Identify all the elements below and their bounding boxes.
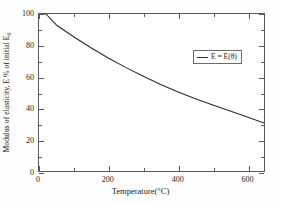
y-tick-label-20: 20 — [26, 136, 34, 145]
y-tick-20 — [39, 141, 44, 142]
x-tick-top-300 — [144, 14, 145, 17]
y-tick-label-80: 80 — [26, 40, 34, 49]
x-tick-top-100 — [74, 14, 75, 17]
y-tick-right-70 — [261, 62, 264, 63]
y-axis-title-container: Modulus of elasticity, E % of initial E0 — [0, 0, 14, 185]
y-tick-right-10 — [261, 157, 264, 158]
y-tick-10 — [39, 157, 42, 158]
y-tick-right-60 — [259, 78, 264, 79]
x-tick-top-400 — [179, 14, 180, 19]
legend-label: E = E(θ) — [211, 53, 237, 61]
y-tick-0 — [39, 173, 44, 174]
y-tick-right-100 — [259, 14, 264, 15]
y-tick-right-80 — [259, 46, 264, 47]
data-curve-line — [39, 14, 264, 123]
y-tick-30 — [39, 125, 42, 126]
y-tick-label-40: 40 — [26, 104, 34, 113]
x-tick-300 — [144, 168, 145, 171]
x-axis-title: Temperature(°C) — [0, 186, 281, 196]
x-tick-0 — [39, 166, 40, 171]
y-axis-title: Modulus of elasticity, E % of initial E0 — [2, 33, 11, 153]
y-axis-title-text: Modulus of elasticity, E % of initial E — [2, 35, 11, 152]
x-tick-top-500 — [214, 14, 215, 17]
x-tick-500 — [214, 168, 215, 171]
y-tick-70 — [39, 62, 42, 63]
x-tick-label-200: 200 — [102, 175, 114, 184]
plot-area — [38, 13, 265, 172]
curve-svg — [39, 14, 264, 171]
x-tick-top-600 — [249, 14, 250, 19]
y-tick-right-50 — [261, 94, 264, 95]
y-tick-right-90 — [261, 30, 264, 31]
y-tick-60 — [39, 78, 44, 79]
figure-canvas: Modulus of elasticity, E % of initial E0… — [0, 0, 281, 205]
y-tick-100 — [39, 14, 44, 15]
y-tick-90 — [39, 30, 42, 31]
x-tick-top-200 — [109, 14, 110, 19]
legend-box: E = E(θ) — [193, 50, 242, 64]
y-tick-50 — [39, 94, 42, 95]
y-tick-right-0 — [259, 173, 264, 174]
y-tick-label-0: 0 — [30, 168, 34, 177]
y-tick-right-30 — [261, 125, 264, 126]
x-tick-label-0: 0 — [36, 175, 40, 184]
y-axis-title-subscript: 0 — [6, 33, 12, 36]
y-tick-label-60: 60 — [26, 72, 34, 81]
y-tick-right-40 — [259, 109, 264, 110]
x-tick-200 — [109, 166, 110, 171]
x-tick-label-400: 400 — [172, 175, 184, 184]
y-tick-80 — [39, 46, 44, 47]
x-tick-600 — [249, 166, 250, 171]
x-tick-100 — [74, 168, 75, 171]
y-tick-40 — [39, 109, 44, 110]
y-tick-right-20 — [259, 141, 264, 142]
x-tick-label-600: 600 — [242, 175, 254, 184]
legend-line-swatch — [197, 57, 208, 58]
x-tick-400 — [179, 166, 180, 171]
y-tick-label-100: 100 — [22, 9, 34, 18]
